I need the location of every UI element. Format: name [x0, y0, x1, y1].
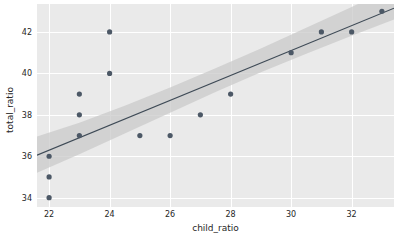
scatter-point — [107, 71, 112, 76]
scatter-point — [47, 174, 52, 179]
x-tick-label: 28 — [226, 210, 236, 219]
y-tick-label: 42 — [14, 27, 32, 36]
x-tick-label: 24 — [105, 210, 115, 219]
x-tick-label: 22 — [44, 210, 54, 219]
y-tick-label: 36 — [14, 152, 32, 161]
plot-panel — [37, 4, 394, 207]
scatter-point — [319, 29, 324, 34]
chart-figure: 222426283032 3436384042 child_ratio tota… — [0, 0, 400, 249]
plot-data-layer — [37, 4, 394, 207]
scatter-point — [77, 92, 82, 97]
scatter-point — [77, 133, 82, 138]
scatter-point — [77, 112, 82, 117]
x-tick-label: 32 — [347, 210, 357, 219]
x-tick-label: 26 — [165, 210, 175, 219]
scatter-point — [47, 195, 52, 200]
y-tick-label: 34 — [14, 193, 32, 202]
y-tick-label: 40 — [14, 69, 32, 78]
y-axis-title: total_ratio — [5, 80, 15, 140]
y-tick-label: 38 — [14, 110, 32, 119]
scatter-point — [47, 154, 52, 159]
scatter-point — [379, 9, 384, 14]
x-tick-label: 30 — [286, 210, 296, 219]
scatter-point — [198, 112, 203, 117]
scatter-point — [228, 92, 233, 97]
scatter-point — [168, 133, 173, 138]
scatter-point — [349, 29, 354, 34]
scatter-point — [289, 50, 294, 55]
regression-line — [37, 8, 394, 155]
x-axis-title: child_ratio — [37, 223, 394, 233]
confidence-band — [37, 4, 394, 173]
scatter-point — [137, 133, 142, 138]
scatter-point — [107, 29, 112, 34]
